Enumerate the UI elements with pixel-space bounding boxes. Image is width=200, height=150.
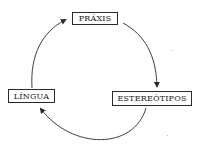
node-estereotipos-label: ESTEREÓTIPOS <box>117 94 186 103</box>
node-praxis: PRÁXIS <box>72 12 118 25</box>
node-lingua: LÍNGUA <box>8 89 55 103</box>
arrow-lingua-to-praxis <box>32 20 65 88</box>
arrow-estereotipos-to-lingua <box>41 108 146 140</box>
scan-speck <box>167 135 168 136</box>
cycle-diagram: PRÁXIS ESTEREÓTIPOS LÍNGUA <box>0 0 200 150</box>
node-praxis-label: PRÁXIS <box>79 14 112 23</box>
arrow-praxis-to-estereotipos <box>123 23 157 86</box>
node-lingua-label: LÍNGUA <box>14 92 49 101</box>
node-estereotipos: ESTEREÓTIPOS <box>112 91 192 106</box>
scan-speck <box>172 50 173 51</box>
